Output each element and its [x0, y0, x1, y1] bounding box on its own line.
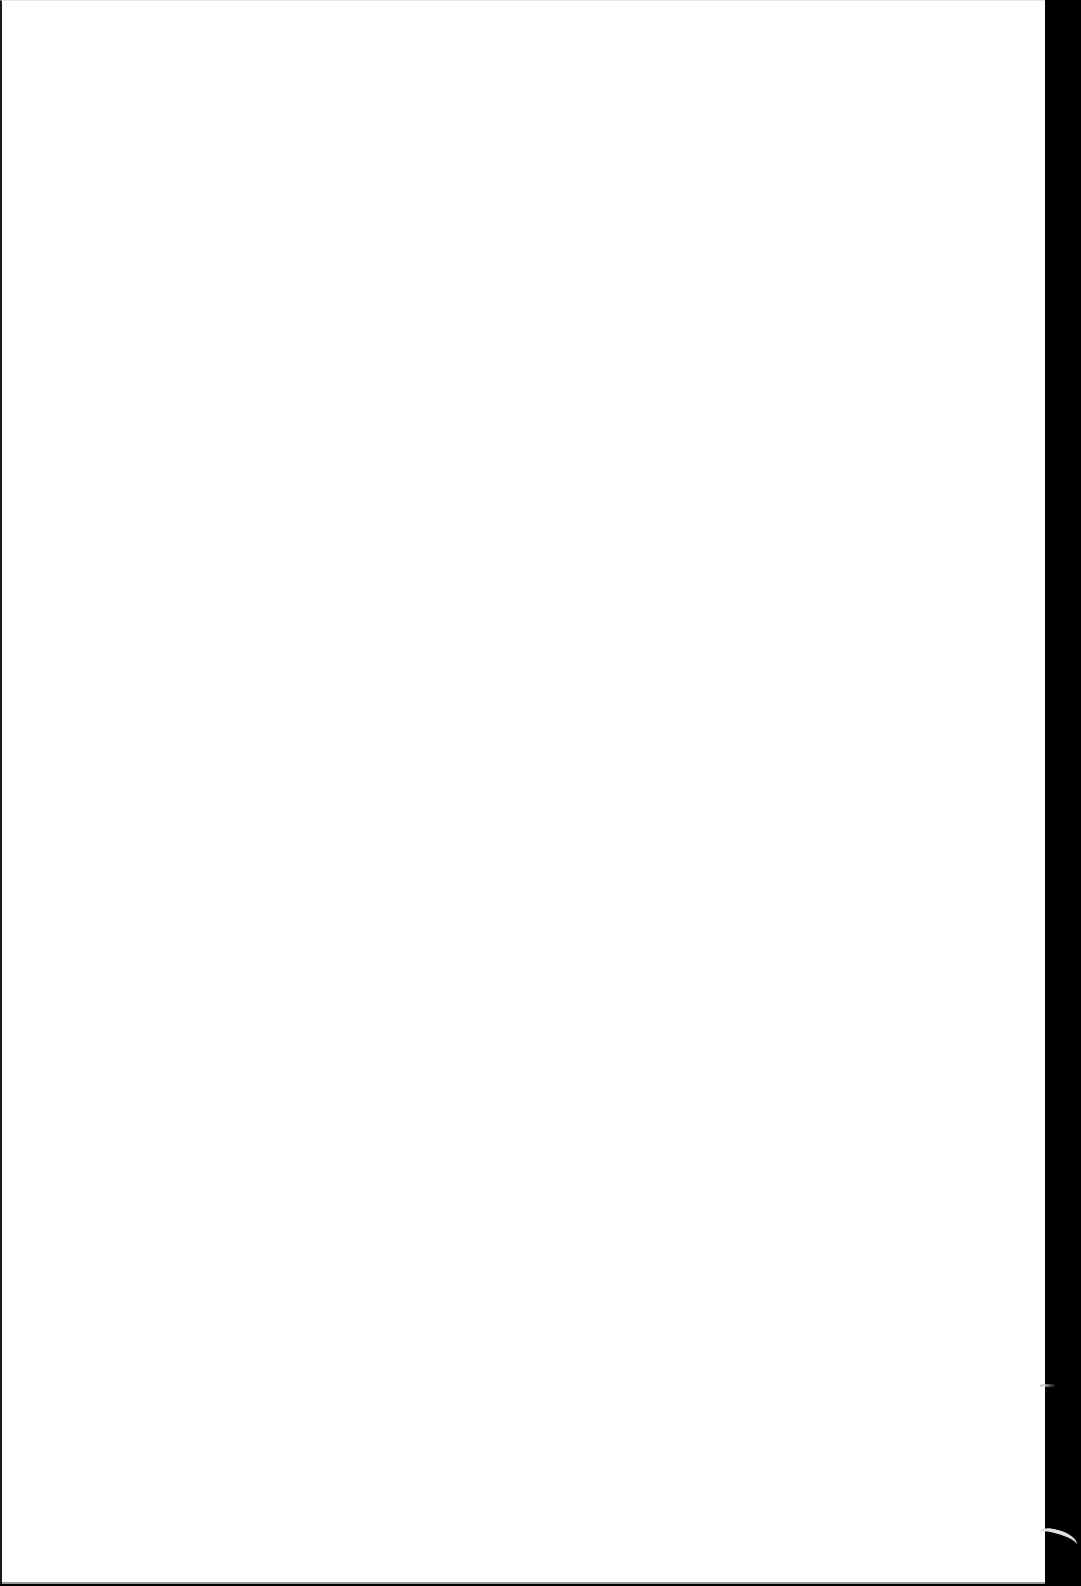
scanner-background-strip: [1045, 0, 1081, 1586]
scanned-document: [0, 0, 1081, 1586]
page-bottom-edge: [2, 1582, 1047, 1584]
scan-artifact-mark: [1040, 1384, 1056, 1387]
blank-page: [0, 0, 1045, 1584]
